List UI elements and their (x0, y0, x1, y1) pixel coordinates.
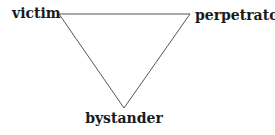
label-bystander: bystander (85, 111, 163, 125)
label-victim: victim (12, 6, 61, 20)
label-perpetrator: perpetrator (195, 8, 275, 22)
triangle-shape (59, 14, 190, 108)
